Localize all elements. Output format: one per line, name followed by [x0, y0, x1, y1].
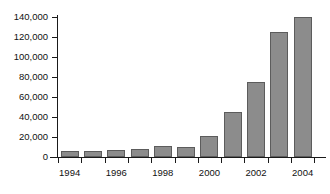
- bar: [84, 151, 102, 158]
- x-axis-tick: [128, 158, 129, 163]
- bar: [107, 150, 125, 158]
- x-axis-tick: [268, 158, 269, 163]
- x-axis-tick: [58, 158, 59, 163]
- bar: [61, 151, 79, 157]
- x-axis-tick: [198, 158, 199, 163]
- bar-chart: 020,00040,00060,00080,000100,000120,0001…: [0, 0, 330, 194]
- bar-series: [0, 0, 330, 157]
- x-axis-tick: [105, 158, 106, 163]
- x-axis-tick-label: 2002: [245, 168, 266, 178]
- x-axis-tick: [175, 158, 176, 163]
- bar: [294, 17, 312, 157]
- x-axis-tick-label: 1994: [59, 168, 80, 178]
- x-axis-tick: [151, 158, 152, 163]
- bar: [154, 146, 172, 157]
- bar: [200, 136, 218, 158]
- x-axis-tick-label: 1998: [152, 168, 173, 178]
- x-axis-tick: [314, 158, 315, 163]
- bar: [177, 147, 195, 157]
- x-axis-tick: [221, 158, 222, 163]
- bar: [270, 32, 288, 157]
- x-axis-tick: [244, 158, 245, 163]
- x-axis-tick-label: 2000: [199, 168, 220, 178]
- bar: [224, 112, 242, 158]
- bar: [247, 82, 265, 158]
- x-axis-tick: [291, 158, 292, 163]
- x-axis-tick-label: 1996: [106, 168, 127, 178]
- x-axis-line: [50, 157, 326, 158]
- x-axis-tick-label: 2004: [292, 168, 313, 178]
- bar: [131, 149, 149, 158]
- x-axis-tick: [81, 158, 82, 163]
